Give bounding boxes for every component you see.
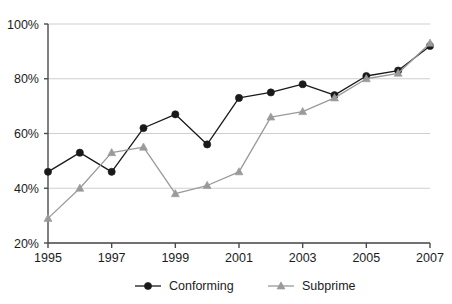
- y-axis-tick-label: 100%: [7, 18, 39, 32]
- data-point-marker: [204, 141, 211, 148]
- y-axis-tick-label: 80%: [14, 72, 39, 86]
- chart-container: 20%40%60%80%100% 19951997199920012003200…: [0, 0, 452, 304]
- data-point-marker: [140, 143, 148, 150]
- series-line: [48, 43, 430, 218]
- data-point-marker: [172, 111, 179, 118]
- y-axis-tick-label: 60%: [14, 127, 39, 141]
- x-tick-marks-group: [48, 243, 430, 248]
- series-line: [48, 46, 430, 172]
- data-point-marker: [108, 168, 115, 175]
- line-chart: 20%40%60%80%100% 19951997199920012003200…: [0, 0, 452, 304]
- x-axis-tick-label: 2005: [352, 251, 380, 265]
- data-point-marker: [140, 124, 147, 131]
- series-subprime: [44, 39, 434, 221]
- x-axis-tick-label: 1999: [161, 251, 189, 265]
- gridlines-group: [48, 24, 430, 243]
- legend-item-subprime[interactable]: Subprime: [268, 279, 356, 293]
- legend-label: Conforming: [169, 279, 234, 293]
- data-point-marker: [426, 39, 434, 46]
- y-axis-tick-label: 40%: [14, 182, 39, 196]
- data-point-marker: [76, 149, 83, 156]
- legend-label: Subprime: [302, 279, 356, 293]
- data-point-marker: [144, 282, 151, 289]
- x-axis-tick-label: 2001: [225, 251, 253, 265]
- data-point-marker: [299, 81, 306, 88]
- y-axis-tick-label: 20%: [14, 237, 39, 251]
- chart-legend: ConformingSubprime: [135, 279, 356, 293]
- data-series-layer: [44, 39, 434, 221]
- data-point-marker: [267, 89, 274, 96]
- series-conforming: [44, 42, 433, 175]
- y-tick-labels-group: 20%40%60%80%100%: [7, 18, 39, 251]
- data-point-marker: [235, 168, 243, 175]
- x-axis-tick-label: 1997: [98, 251, 126, 265]
- data-point-marker: [235, 94, 242, 101]
- legend-item-conforming[interactable]: Conforming: [135, 279, 234, 293]
- x-tick-labels-group: 1995199719992001200320052007: [34, 251, 444, 265]
- x-axis-tick-label: 1995: [34, 251, 62, 265]
- x-axis-tick-label: 2003: [289, 251, 317, 265]
- data-point-marker: [44, 168, 51, 175]
- x-axis-tick-label: 2007: [416, 251, 444, 265]
